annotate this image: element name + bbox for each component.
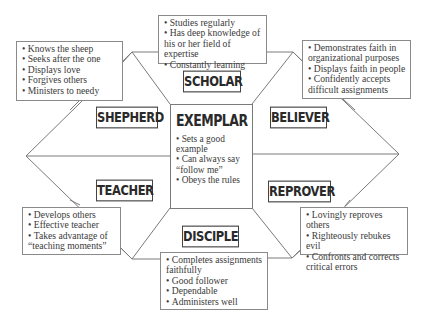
believer-description-box: Demonstrates faith in organizational pur… bbox=[302, 40, 411, 99]
disciple-item: Completes assignments faithfully bbox=[166, 255, 263, 276]
exemplar-item: Obeys the rules bbox=[176, 175, 248, 185]
disciple-label: DISCIPLE bbox=[182, 226, 239, 248]
teacher-item: Takes advantage of “teaching moments” bbox=[28, 231, 116, 252]
disciple-description-box: Completes assignments faithfully Good fo… bbox=[160, 252, 268, 310]
shepherd-description-box: Knows the sheep Seeks after the one Disp… bbox=[16, 41, 123, 101]
line-bottomright-inner bbox=[252, 208, 292, 258]
teacher-label: TEACHER bbox=[96, 180, 153, 202]
scholar-item: Constantly learning bbox=[164, 60, 262, 70]
reprover-item: Lovingly reproves others bbox=[306, 210, 403, 231]
exemplar-item: Sets a good example bbox=[176, 134, 248, 154]
scholar-label: SCHOLAR bbox=[183, 71, 241, 93]
scholar-item: Has deep knowledge of his or her field o… bbox=[164, 28, 262, 59]
believer-label: BELIEVER bbox=[270, 107, 327, 129]
exemplar-diagram: Studies regularly Has deep knowledge of … bbox=[0, 0, 426, 326]
disciple-item: Administers well bbox=[166, 297, 263, 307]
believer-item: Demonstrates faith in organizational pur… bbox=[308, 43, 406, 64]
exemplar-center-box: EXEMPLAR Sets a good example Can always … bbox=[170, 104, 253, 209]
scholar-description-box: Studies regularly Has deep knowledge of … bbox=[158, 15, 267, 64]
exemplar-item: Can always say “follow me” bbox=[176, 154, 248, 174]
reprover-label: REPROVER bbox=[268, 181, 331, 203]
teacher-description-box: Develops others Effective teacher Takes … bbox=[22, 207, 121, 255]
reprover-description-box: Lovingly reproves others Righteously reb… bbox=[300, 207, 408, 255]
believer-item: Confidently accepts difficult assignment… bbox=[308, 74, 406, 95]
shepherd-item: Ministers to needy bbox=[22, 86, 118, 96]
shepherd-label: SHEPHERD bbox=[96, 107, 158, 129]
reprover-item: Righteously rebukes evil bbox=[306, 231, 403, 252]
reprover-item: Confronts and corrects critical errors bbox=[306, 252, 403, 273]
exemplar-title: EXEMPLAR bbox=[176, 111, 248, 130]
